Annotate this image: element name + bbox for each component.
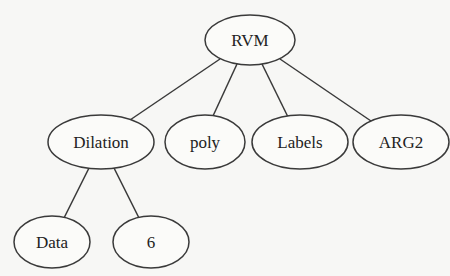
node-six: 6	[113, 216, 189, 268]
node-six-label: 6	[147, 233, 156, 252]
node-dilation-label: Dilation	[73, 133, 129, 152]
edge-rvm-poly	[213, 64, 237, 116]
tree-diagram: RVM Dilation poly Labels ARG2 Data 6	[0, 0, 450, 276]
node-labels: Labels	[252, 115, 348, 169]
node-dilation: Dilation	[48, 115, 154, 169]
edge-rvm-dilation	[130, 59, 220, 120]
node-rvm: RVM	[205, 15, 295, 65]
node-arg2-label: ARG2	[379, 133, 423, 152]
edge-rvm-labels	[262, 64, 288, 117]
node-poly: poly	[165, 115, 245, 169]
node-arg2: ARG2	[353, 115, 449, 169]
node-data-label: Data	[36, 233, 69, 252]
edge-rvm-arg2	[280, 59, 371, 121]
edge-dilation-six	[114, 168, 139, 218]
edge-dilation-data	[64, 168, 89, 218]
node-data: Data	[14, 216, 90, 268]
nodes-group: RVM Dilation poly Labels ARG2 Data 6	[14, 15, 449, 268]
node-poly-label: poly	[190, 133, 221, 152]
node-rvm-label: RVM	[231, 31, 268, 50]
node-labels-label: Labels	[277, 133, 322, 152]
